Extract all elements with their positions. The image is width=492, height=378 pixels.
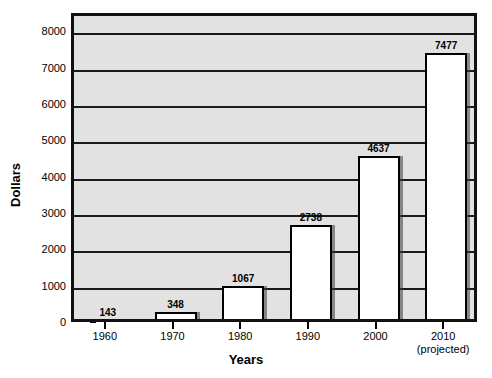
y-axis-tick-label: 0: [24, 316, 66, 328]
y-axis-tick-label: 8000: [24, 25, 66, 37]
gridline: [74, 33, 474, 35]
y-axis-tick-labels: 010002000300040005000600070008000: [24, 13, 66, 322]
y-axis-tick-label: 6000: [24, 98, 66, 110]
x-axis-tick-mark: [307, 322, 309, 329]
y-axis-tick-label: 2000: [24, 243, 66, 255]
y-axis-tick-label: 5000: [24, 134, 66, 146]
x-axis-tick-mark: [239, 322, 241, 329]
bar: [222, 286, 264, 322]
bar-chart: Dollars 01000200030004000500060007000800…: [0, 0, 492, 378]
bar-value-label: 348: [136, 299, 216, 310]
x-axis-tick-mark: [375, 322, 377, 329]
bar-value-label: 1067: [203, 273, 283, 284]
x-axis-tick-marks: [71, 322, 477, 329]
x-axis-tick-label: 1990: [296, 330, 320, 343]
gridline: [74, 251, 474, 253]
plot-area: 1433481067273846377477: [71, 13, 477, 322]
x-axis-tick-mark: [442, 322, 444, 329]
bar: [290, 225, 332, 322]
x-axis-tick-label: 2000: [363, 330, 387, 343]
bar: [155, 312, 197, 322]
x-axis-tick-mark: [104, 322, 106, 329]
x-axis-tick-label: 1980: [228, 330, 252, 343]
bar: [358, 156, 400, 322]
gridline: [74, 106, 474, 108]
x-axis-tick-label: 1960: [93, 330, 117, 343]
y-axis-tick-label: 4000: [24, 171, 66, 183]
gridline: [74, 288, 474, 290]
bar-value-label: 4637: [339, 143, 419, 154]
bar-value-label: 2738: [271, 212, 351, 223]
y-axis-tick-label: 1000: [24, 280, 66, 292]
bar-value-label: 7477: [406, 40, 477, 51]
x-axis-title: Years: [0, 352, 492, 367]
bar: [425, 53, 467, 322]
x-axis-tick-mark: [172, 322, 174, 329]
y-axis-tick-label: 7000: [24, 62, 66, 74]
gridline: [74, 179, 474, 181]
y-axis-tick-label: 3000: [24, 207, 66, 219]
x-axis-tick-label: 1970: [160, 330, 184, 343]
gridline: [74, 70, 474, 72]
